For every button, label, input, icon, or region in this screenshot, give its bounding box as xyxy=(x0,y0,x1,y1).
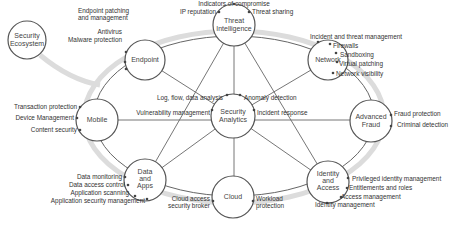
svg-text:Intelligence: Intelligence xyxy=(216,25,252,33)
node-mobile: Mobile xyxy=(76,99,118,141)
svg-text:Access: Access xyxy=(317,184,340,191)
svg-text:Data: Data xyxy=(138,168,153,175)
features-advanced-fraud: Fraud protection Criminal detection xyxy=(394,110,449,128)
node-advanced-fraud: Advanced Fraud xyxy=(350,100,392,142)
svg-text:Identity management: Identity management xyxy=(315,201,375,209)
svg-text:Vulnerability management: Vulnerability management xyxy=(136,109,210,117)
svg-text:Incident response: Incident response xyxy=(257,109,308,117)
svg-text:and: and xyxy=(139,175,151,182)
node-endpoint: Endpoint xyxy=(125,40,165,80)
svg-text:security broker: security broker xyxy=(168,202,211,210)
svg-text:IP reputation: IP reputation xyxy=(180,8,217,16)
svg-text:Anomaly detection: Anomaly detection xyxy=(244,94,297,102)
svg-text:Firewalls: Firewalls xyxy=(333,42,358,49)
svg-text:Application scanning: Application scanning xyxy=(70,189,129,197)
svg-text:Security: Security xyxy=(220,108,246,116)
node-threat-intelligence: Threat Intelligence xyxy=(213,4,255,46)
svg-text:Incident and threat management: Incident and threat management xyxy=(310,33,402,41)
features-mobile: Transaction protection Device Management… xyxy=(14,103,78,134)
security-immune-system-diagram: Security Ecosystem Endpoint Threat Intel… xyxy=(0,0,460,227)
svg-text:Threat sharing: Threat sharing xyxy=(252,8,294,16)
svg-text:Log, flow, data analysis: Log, flow, data analysis xyxy=(157,94,223,102)
svg-text:Cloud: Cloud xyxy=(224,193,242,200)
svg-text:Access management: Access management xyxy=(341,193,401,201)
node-cloud: Cloud xyxy=(212,176,254,218)
svg-text:Ecosystem: Ecosystem xyxy=(10,40,44,48)
svg-text:Cloud access: Cloud access xyxy=(172,195,210,202)
svg-text:Network visibility: Network visibility xyxy=(336,70,384,78)
svg-text:Sandboxing: Sandboxing xyxy=(340,51,374,59)
svg-text:Malware protection: Malware protection xyxy=(68,36,122,44)
svg-text:Content security: Content security xyxy=(31,126,78,134)
node-data-and-apps: Data and Apps xyxy=(124,159,166,201)
svg-text:Device Management: Device Management xyxy=(15,114,74,122)
svg-text:Advanced: Advanced xyxy=(355,113,386,120)
node-security-ecosystem: Security Ecosystem xyxy=(8,21,46,59)
svg-text:Endpoint: Endpoint xyxy=(131,56,159,64)
svg-text:Transaction protection: Transaction protection xyxy=(14,103,77,111)
svg-text:Indicators of compromise: Indicators of compromise xyxy=(198,0,270,8)
svg-text:Mobile: Mobile xyxy=(87,116,108,123)
svg-text:and: and xyxy=(322,177,334,184)
svg-text:protection: protection xyxy=(256,202,285,210)
svg-text:Antivirus: Antivirus xyxy=(97,28,122,35)
svg-text:Entitlements and roles: Entitlements and roles xyxy=(349,184,412,191)
svg-text:Data access control: Data access control xyxy=(69,181,125,188)
svg-text:Fraud protection: Fraud protection xyxy=(394,110,441,118)
svg-text:Workload: Workload xyxy=(256,195,283,202)
svg-text:Application security managemen: Application security management xyxy=(51,197,145,205)
ecosystem-connector xyxy=(40,55,100,85)
svg-text:Privileged identity management: Privileged identity management xyxy=(352,175,441,183)
svg-text:Data monitoring: Data monitoring xyxy=(77,173,123,181)
svg-text:Criminal detection: Criminal detection xyxy=(397,121,449,128)
svg-text:Security: Security xyxy=(14,32,40,40)
features-endpoint: Endpoint patching and management Antivir… xyxy=(68,7,130,44)
svg-text:Threat: Threat xyxy=(224,17,244,24)
svg-text:Apps: Apps xyxy=(137,182,153,190)
svg-text:Analytics: Analytics xyxy=(219,116,248,124)
svg-text:Virtual patching: Virtual patching xyxy=(339,60,383,68)
svg-text:and management: and management xyxy=(78,14,128,22)
svg-text:Fraud: Fraud xyxy=(362,121,380,128)
